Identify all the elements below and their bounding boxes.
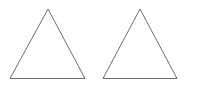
triangles-figure: [0, 0, 218, 90]
canvas-background: [0, 0, 218, 90]
figure-canvas: [0, 0, 218, 90]
